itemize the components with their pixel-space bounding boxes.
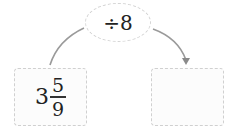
mixed-number: 3 5 9 [35, 75, 66, 118]
operation-label: ÷8 [103, 11, 132, 35]
denominator: 9 [52, 99, 64, 119]
numerator: 5 [52, 75, 64, 95]
arrow-in [50, 28, 84, 65]
arrowhead-icon [182, 58, 190, 65]
answer-box[interactable] [151, 68, 224, 126]
fraction: 5 9 [50, 75, 66, 118]
operation-oval: ÷8 [85, 3, 151, 42]
whole-part: 3 [35, 84, 49, 109]
arrow-out [153, 29, 186, 60]
input-box: 3 5 9 [14, 68, 87, 126]
